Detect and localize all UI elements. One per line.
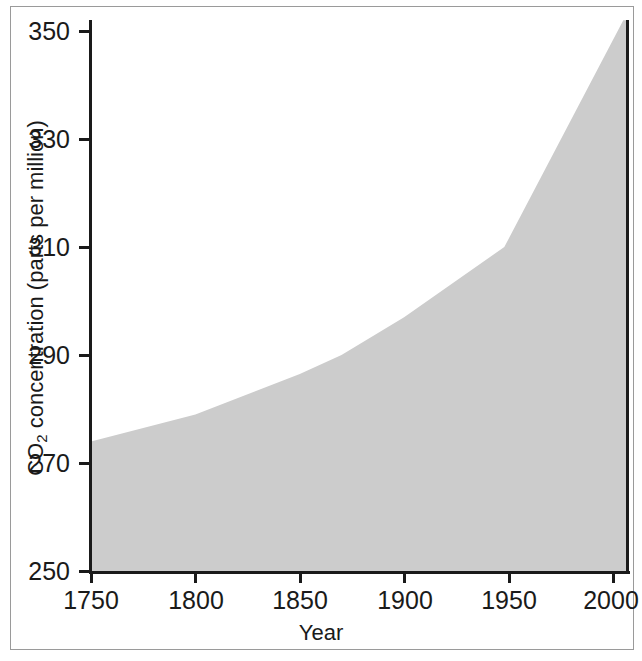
y-axis-title-prefix: CO [23, 443, 48, 476]
x-tick-label-2000: 2000 [561, 586, 642, 615]
co2-concentration-chart: 350 330 310 290 270 250 1750 1800 1850 1… [0, 0, 642, 661]
x-tick-1850 [299, 572, 302, 583]
x-tick-1750 [90, 572, 93, 583]
x-tick-label-1750: 1750 [41, 586, 141, 615]
area-plot [0, 0, 642, 661]
x-tick-label-1900: 1900 [355, 586, 455, 615]
x-tick-1900 [403, 572, 406, 583]
y-axis-title: CO2 concentration (parts per million) [23, 18, 49, 578]
x-axis-title: Year [0, 620, 642, 646]
y-tick-310 [79, 246, 90, 249]
y-axis-title-suffix: concentration (parts per million) [23, 120, 48, 434]
x-tick-1950 [508, 572, 511, 583]
right-axis-line [626, 20, 629, 573]
x-tick-2000 [612, 572, 615, 583]
y-tick-330 [79, 138, 90, 141]
y-axis-line [89, 20, 92, 573]
x-tick-label-1950: 1950 [459, 586, 559, 615]
y-axis-title-subscript: 2 [33, 434, 50, 442]
y-tick-290 [79, 354, 90, 357]
x-axis-line [89, 571, 630, 574]
x-tick-1800 [194, 572, 197, 583]
x-tick-label-1800: 1800 [146, 586, 246, 615]
y-tick-250 [79, 570, 90, 573]
co2-area-fill [91, 20, 627, 571]
y-tick-350 [79, 30, 90, 33]
x-tick-label-1850: 1850 [250, 586, 350, 615]
y-tick-270 [79, 462, 90, 465]
